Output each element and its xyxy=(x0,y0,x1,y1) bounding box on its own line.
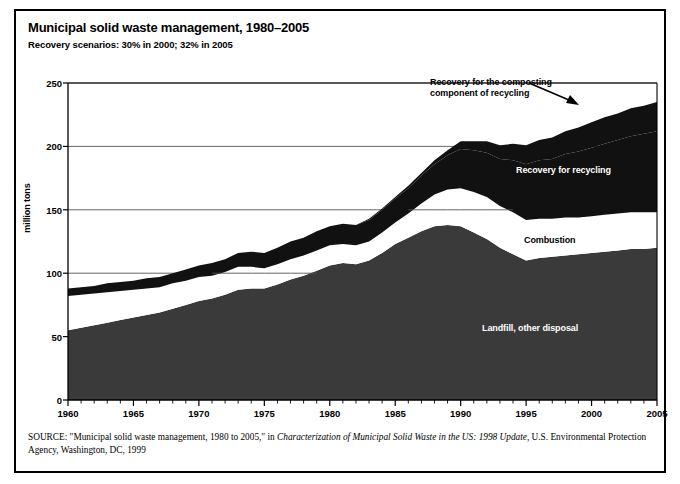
x-tick-label-1965: 1965 xyxy=(113,408,153,419)
x-tick-label-1985: 1985 xyxy=(375,408,415,419)
y-tick-label-150: 150 xyxy=(22,204,62,215)
figure-subtitle: Recovery scenarios: 30% in 2000; 32% in … xyxy=(28,39,233,50)
source-publication-title: Characterization of Municipal Solid Wast… xyxy=(277,432,527,442)
page-title: Municipal solid waste management, 1980–2… xyxy=(28,20,309,35)
annotation-composting-line1: Recovery for the composting xyxy=(430,77,552,88)
annotation-combustion: Combustion xyxy=(524,235,576,246)
source-text-part1: : "Municipal solid waste management, 198… xyxy=(65,432,277,442)
annotation-composting-line2: component of recycling xyxy=(430,88,552,99)
composting-callout-arrow-head xyxy=(566,95,579,105)
x-tick-label-2005: 2005 xyxy=(637,408,677,419)
y-tick-label-50: 50 xyxy=(22,331,62,342)
figure-container: Municipal solid waste management, 1980–2… xyxy=(14,9,666,473)
source-label: SOURCE xyxy=(28,432,65,442)
x-tick-label-1975: 1975 xyxy=(244,408,284,419)
y-tick-label-200: 200 xyxy=(22,141,62,152)
y-tick-label-250: 250 xyxy=(22,78,62,89)
annotation-landfill: Landfill, other disposal xyxy=(482,323,578,334)
x-tick-label-1995: 1995 xyxy=(506,408,546,419)
y-tick-label-0: 0 xyxy=(22,395,62,406)
annotation-composting: Recovery for the compostingcomponent of … xyxy=(430,77,552,100)
chart-area: million tons 050100150200250 19601965197… xyxy=(16,55,668,420)
x-tick-label-1980: 1980 xyxy=(310,408,350,419)
annotation-recycling: Recovery for recycling xyxy=(516,165,611,176)
y-tick-label-100: 100 xyxy=(22,268,62,279)
source-note: SOURCE: "Municipal solid waste managemen… xyxy=(28,431,656,458)
x-tick-label-1990: 1990 xyxy=(441,408,481,419)
x-tick-label-1970: 1970 xyxy=(179,408,219,419)
x-tick-label-2000: 2000 xyxy=(572,408,612,419)
x-tick-label-1960: 1960 xyxy=(48,408,88,419)
